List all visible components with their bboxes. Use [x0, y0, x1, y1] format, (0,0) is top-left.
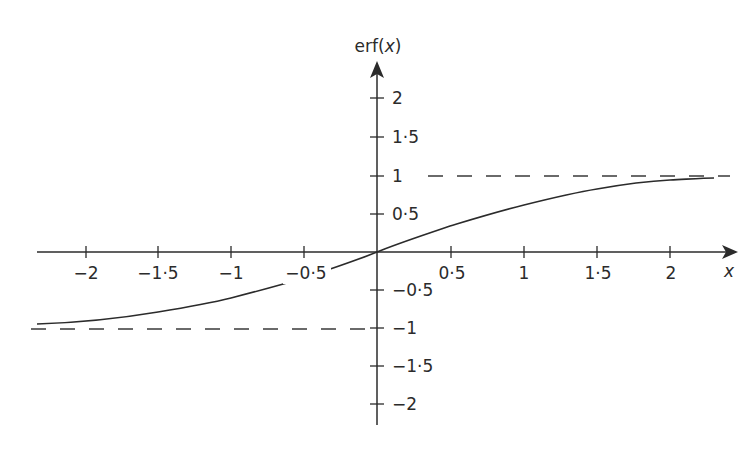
y-tick-labels: 2 1·5 1 0·5 −0·5 −1 −1·5 −2: [392, 88, 433, 414]
y-tick-label: 1: [392, 166, 403, 186]
y-tick-label: −1·5: [392, 356, 433, 376]
x-tick-label: −1: [218, 263, 243, 283]
x-tick-labels: −2 −1·5 −1 −0·5 0·5 1 1·5 2: [73, 263, 676, 283]
y-tick-label: 2: [392, 88, 403, 108]
y-tick-label: −2: [392, 394, 417, 414]
x-tick-label: 2: [666, 263, 677, 283]
x-tick-label: 0·5: [438, 263, 465, 283]
y-tick-label: 1·5: [392, 127, 419, 147]
y-tick-label: −0·5: [392, 280, 433, 300]
y-axis-label: erf(x): [355, 36, 402, 56]
y-tick-label: −1: [392, 318, 417, 338]
x-tick-label: 1: [519, 263, 530, 283]
x-tick-label: −0·5: [285, 263, 326, 283]
x-tick-label: −1·5: [137, 263, 178, 283]
erf-chart: −2 −1·5 −1 −0·5 0·5 1 1·5 2 2 1·5 1 0·5 …: [0, 0, 754, 453]
y-tick-label: 0·5: [392, 204, 419, 224]
x-tick-label: −2: [73, 263, 98, 283]
x-tick-label: 1·5: [584, 263, 611, 283]
erf-curve: [37, 178, 714, 324]
x-axis-label: x: [723, 261, 735, 281]
